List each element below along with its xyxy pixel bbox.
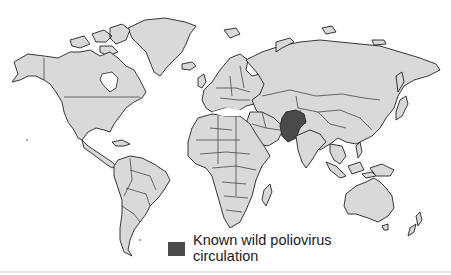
world-map: Known wild poliovirus circulation: [0, 0, 451, 275]
uk: [198, 74, 206, 88]
legend-label-line1: Known wild poliovirus: [193, 232, 332, 248]
bottom-divider: [0, 271, 451, 273]
philippines: [356, 142, 362, 158]
svalbard: [224, 28, 240, 38]
tasmania: [382, 224, 388, 230]
caribbean: [112, 140, 130, 146]
legend: Known wild poliovirus circulation: [168, 232, 332, 264]
north-america: [12, 50, 146, 140]
australia: [344, 178, 394, 222]
indonesia: [326, 162, 376, 178]
southeast-asia: [330, 144, 346, 164]
madagascar: [262, 184, 272, 206]
new-zealand: [408, 212, 422, 236]
legend-label: Known wild poliovirus circulation: [193, 232, 332, 264]
legend-label-line2: circulation: [193, 248, 332, 264]
legend-swatch-poliovirus: [168, 242, 185, 256]
arctic-islands: [70, 24, 130, 56]
kamchatka: [396, 72, 404, 92]
central-america: [82, 140, 116, 168]
iceland: [182, 62, 196, 70]
japan: [396, 96, 408, 120]
